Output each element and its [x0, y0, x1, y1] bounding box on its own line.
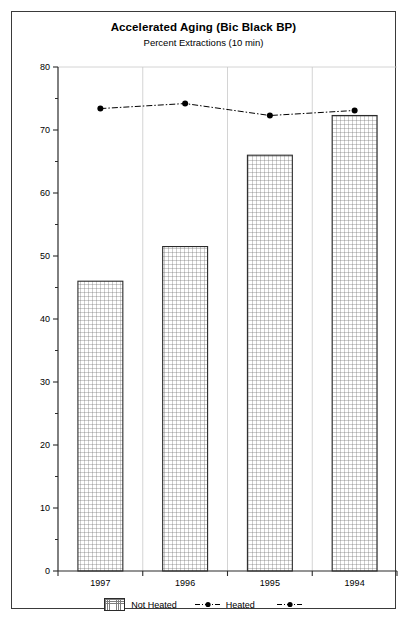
legend-item-heated: Heated [195, 600, 303, 610]
chart-card: Accelerated Aging (Bic Black BP) Percent… [11, 11, 396, 609]
x-axis-tick-label: 1994 [325, 578, 385, 589]
legend-label-not-heated: Not Heated [131, 600, 177, 610]
legend-item-not-heated: Not Heated [104, 598, 177, 611]
dash-dot-marker-trailing-icon [277, 600, 303, 609]
x-axis-tick-labels: 1997199619951994 [58, 578, 351, 594]
plot-area [58, 67, 351, 571]
x-axis-tick-label: 1997 [70, 578, 130, 589]
plot-svg [12, 12, 397, 557]
chart-legend: Not Heated Heated [12, 598, 395, 611]
x-axis-tick-label: 1996 [155, 578, 215, 589]
dash-dot-marker-icon [195, 600, 221, 609]
legend-label-heated: Heated [226, 600, 255, 610]
y-axis-tick-label: 0 [24, 567, 50, 576]
x-axis-ticks [58, 571, 397, 576]
y-axis-major-ticks [53, 67, 58, 571]
hatched-bar-swatch-icon [104, 598, 125, 611]
x-axis-tick-label: 1995 [240, 578, 300, 589]
